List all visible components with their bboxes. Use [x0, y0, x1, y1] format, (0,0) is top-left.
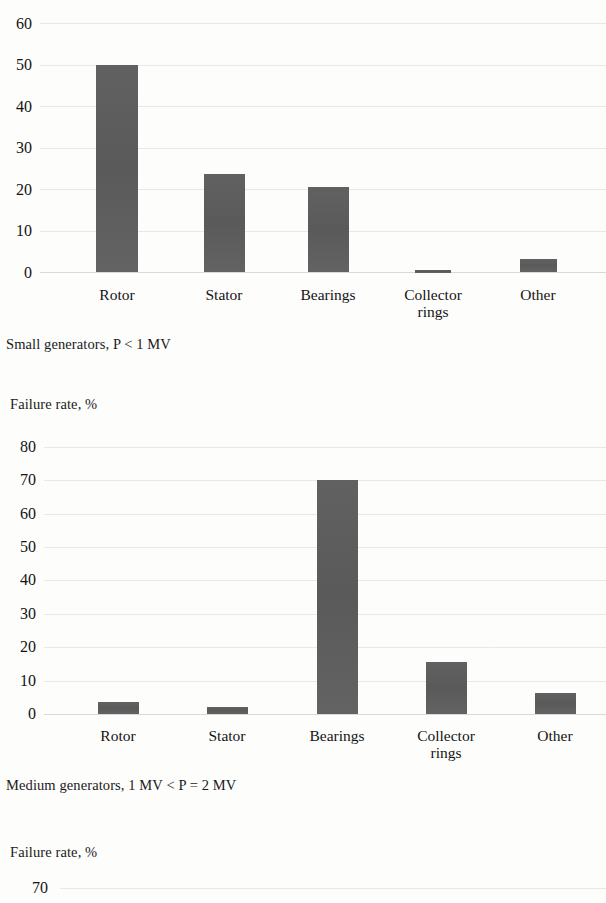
y-tick-label: 20: [0, 182, 32, 198]
y-tick-label: 70: [0, 472, 36, 488]
y-axis-title: Failure rate, %: [10, 844, 97, 861]
x-label-bearings: Bearings: [268, 286, 388, 303]
axis-baseline: [40, 272, 606, 273]
chart-medium-generators: Failure rate, % 80 70 60 50 40 30 20 10 …: [0, 396, 606, 786]
gridline-70: [60, 888, 606, 889]
y-tick-label: 60: [0, 506, 36, 522]
y-axis-title: Failure rate, %: [10, 396, 97, 413]
bar-collector-rings: [426, 662, 467, 714]
x-label-collector-rings: Collector rings: [373, 286, 493, 321]
x-label-other: Other: [478, 286, 598, 303]
y-tick-label: 80: [0, 439, 36, 455]
x-label-stator: Stator: [167, 727, 287, 744]
chart-small-generators: 60 50 40 30 20 10 0 Rotor Stator Bearing…: [0, 0, 606, 345]
bar-stator: [207, 707, 248, 714]
y-tick-label: 20: [0, 639, 36, 655]
bar-other: [535, 693, 576, 714]
chart-large-generators: Failure rate, % 70: [0, 844, 606, 903]
gridline-80: [44, 447, 606, 448]
y-tick-label: 50: [0, 539, 36, 555]
x-label-bearings: Bearings: [277, 727, 397, 744]
x-label-other: Other: [495, 727, 606, 744]
gridline-60: [40, 23, 606, 24]
bar-rotor: [98, 702, 139, 714]
axis-baseline: [44, 714, 606, 715]
bar-bearings: [317, 480, 358, 714]
caption-small-generators: Small generators, P < 1 MV: [6, 336, 171, 353]
y-tick-label: 50: [0, 57, 32, 73]
y-tick-label: 70: [8, 880, 48, 896]
y-tick-label: 40: [0, 99, 32, 115]
y-tick-label: 10: [0, 673, 36, 689]
bar-bearings: [308, 187, 349, 272]
y-tick-label: 10: [0, 223, 32, 239]
y-tick-label: 0: [0, 265, 32, 281]
y-tick-label: 30: [0, 606, 36, 622]
y-tick-label: 40: [0, 572, 36, 588]
x-label-rotor: Rotor: [58, 727, 178, 744]
x-label-collector-rings: Collector rings: [386, 727, 506, 762]
bar-stator: [204, 174, 245, 272]
bar-rotor: [96, 65, 138, 272]
x-label-rotor: Rotor: [57, 286, 177, 303]
y-tick-label: 0: [0, 706, 36, 722]
x-label-stator: Stator: [164, 286, 284, 303]
y-tick-label: 30: [0, 140, 32, 156]
bar-collector-rings: [415, 270, 451, 273]
bar-other: [520, 259, 557, 272]
caption-medium-generators: Medium generators, 1 MV < P = 2 MV: [6, 777, 236, 794]
y-tick-label: 60: [0, 16, 32, 32]
